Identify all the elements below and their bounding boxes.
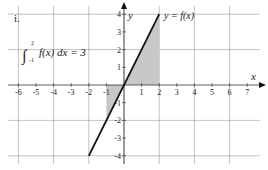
x-axis-label: x	[250, 70, 256, 82]
y-axis-arrow-icon	[121, 2, 127, 9]
problem-label: i.	[14, 12, 20, 24]
tick-labels: -6-5-4-3-2-11234567-4-3-2-11234	[15, 10, 249, 161]
x-tick-label: 1	[140, 88, 144, 97]
x-tick-label: 7	[245, 88, 249, 97]
x-tick-label: -2	[85, 88, 92, 97]
integral-expression: f(x) dx = 3	[39, 46, 86, 59]
x-tick-label: -3	[68, 88, 75, 97]
x-tick-label: 2	[157, 88, 161, 97]
y-tick-label: -2	[114, 116, 121, 125]
y-axis-label: y	[127, 9, 133, 21]
x-tick-label: -6	[15, 88, 22, 97]
y-tick-label: -4	[114, 152, 121, 161]
y-tick-label: 3	[117, 28, 121, 37]
x-tick-label: -1	[103, 88, 110, 97]
y-tick-label: 4	[117, 10, 121, 19]
x-tick-label: 5	[210, 88, 214, 97]
x-axis-arrow-icon	[259, 82, 266, 88]
y-tick-label: 1	[117, 63, 121, 72]
x-tick-label: 3	[175, 88, 179, 97]
integral-graph: -6-5-4-3-2-11234567-4-3-2-11234 i. ∫ 2 -…	[0, 0, 268, 170]
x-tick-label: -5	[33, 88, 40, 97]
x-tick-label: 4	[192, 88, 196, 97]
curve-label: y = f(x)	[163, 10, 195, 22]
y-tick-label: 2	[117, 46, 121, 55]
x-tick-label: 6	[228, 88, 232, 97]
integral-lower-limit: -1	[29, 57, 34, 63]
y-tick-label: -3	[114, 134, 121, 143]
x-tick-label: -4	[50, 88, 57, 97]
integral-upper-limit: 2	[31, 40, 34, 46]
